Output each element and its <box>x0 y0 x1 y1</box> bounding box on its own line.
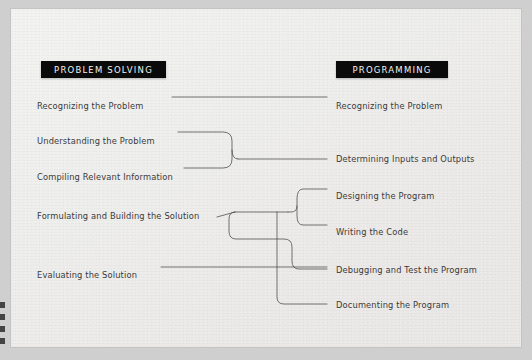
left-item-evaluating-the-solution: Evaluating the Solution <box>37 271 137 279</box>
page-edge-mark-1 <box>0 302 5 308</box>
connector-formulating-stub <box>217 212 235 217</box>
connector-understanding-to-brace <box>178 132 238 159</box>
left-item-formulating-and-building-the-solution: Formulating and Building the Solution <box>37 212 199 220</box>
header-problem-solving: PROBLEM SOLVING <box>41 61 166 78</box>
connector-compiling-to-brace <box>184 150 232 168</box>
right-item-documenting-the-program: Documenting the Program <box>336 301 449 309</box>
right-item-recognizing-the-problem: Recognizing the Problem <box>336 102 442 110</box>
right-item-determining-inputs-and-outputs: Determining Inputs and Outputs <box>336 155 475 163</box>
left-item-compiling-relevant-information: Compiling Relevant Information <box>37 173 173 181</box>
header-programming-label: PROGRAMMING <box>352 65 431 75</box>
header-programming: PROGRAMMING <box>336 61 448 78</box>
right-item-debugging-and-test-the-program: Debugging and Test the Program <box>336 266 477 274</box>
right-item-designing-the-program: Designing the Program <box>336 192 435 200</box>
left-item-understanding-the-problem: Understanding the Problem <box>37 137 155 145</box>
page-edge-mark-4 <box>0 338 5 344</box>
connector-formulating-to-debugging <box>229 212 327 269</box>
header-problem-solving-label: PROBLEM SOLVING <box>54 65 153 75</box>
connector-formulating-to-documenting <box>277 212 327 304</box>
left-item-recognizing-the-problem: Recognizing the Problem <box>37 102 143 110</box>
connector-formulating-to-writing-code <box>297 206 327 225</box>
right-item-writing-the-code: Writing the Code <box>336 228 408 236</box>
page-edge-mark-2 <box>0 314 5 320</box>
connector-formulating-to-designing <box>288 189 327 212</box>
slide-canvas: PROBLEM SOLVING PROGRAMMING Recognizing … <box>11 9 521 347</box>
page-edge-mark-3 <box>0 326 5 332</box>
